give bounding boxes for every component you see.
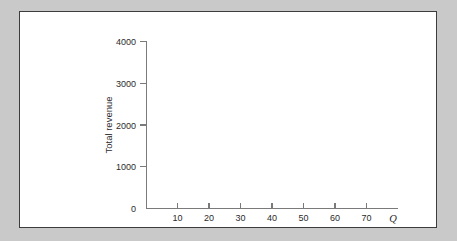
y-tick-label-0: 0 <box>131 204 136 214</box>
y-tick-label-1000: 1000 <box>116 162 136 172</box>
x-tick-label-20: 20 <box>204 213 214 223</box>
x-axis-variable-label: Q <box>389 213 397 224</box>
chart-svg: 4000 3000 2000 1000 0 10 20 30 40 50 <box>20 12 438 229</box>
x-tick-label-30: 30 <box>235 213 245 223</box>
x-tick-label-60: 60 <box>330 213 340 223</box>
y-tick-label-3000: 3000 <box>116 79 136 89</box>
figure-panel: 4000 3000 2000 1000 0 10 20 30 40 50 <box>19 11 437 228</box>
x-tick-label-10: 10 <box>172 213 182 223</box>
chart-plot-area: 4000 3000 2000 1000 0 10 20 30 40 50 <box>20 12 438 229</box>
x-tick-label-50: 50 <box>298 213 308 223</box>
x-tick-label-70: 70 <box>361 213 371 223</box>
y-axis-title: Total revenue <box>103 96 114 153</box>
x-tick-label-40: 40 <box>267 213 277 223</box>
y-tick-label-4000: 4000 <box>116 37 136 47</box>
y-tick-label-2000: 2000 <box>116 121 136 131</box>
figure-frame: 4000 3000 2000 1000 0 10 20 30 40 50 <box>0 0 457 241</box>
